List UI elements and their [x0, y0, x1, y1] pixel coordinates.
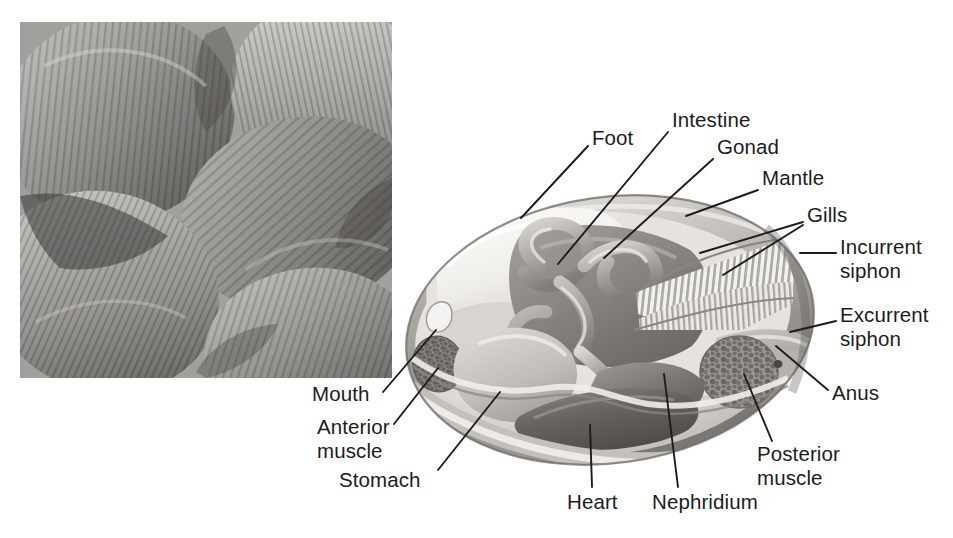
label-mantle[interactable]: Mantle — [762, 166, 824, 190]
label-intestine[interactable]: Intestine — [672, 108, 750, 132]
label-foot[interactable]: Foot — [592, 126, 633, 150]
label-nephridium[interactable]: Nephridium — [652, 490, 758, 514]
label-gonad[interactable]: Gonad — [717, 135, 779, 159]
label-excurrent-siphon[interactable]: Excurrent siphon — [840, 303, 929, 351]
clam-shells-photograph — [0, 0, 466, 439]
label-mouth[interactable]: Mouth — [312, 382, 369, 406]
label-gills[interactable]: Gills — [807, 203, 847, 227]
label-anus[interactable]: Anus — [832, 381, 879, 405]
clam-anatomy-figure: Foot Intestine Gonad Mantle Gills Incurr… — [0, 0, 953, 538]
label-heart[interactable]: Heart — [567, 490, 618, 514]
label-posterior-muscle[interactable]: Posterior muscle — [757, 442, 840, 490]
label-stomach[interactable]: Stomach — [339, 468, 421, 492]
anus-shape — [774, 360, 783, 368]
label-anterior-muscle[interactable]: Anterior muscle — [317, 415, 390, 463]
label-incurrent-siphon[interactable]: Incurrent siphon — [840, 235, 922, 283]
